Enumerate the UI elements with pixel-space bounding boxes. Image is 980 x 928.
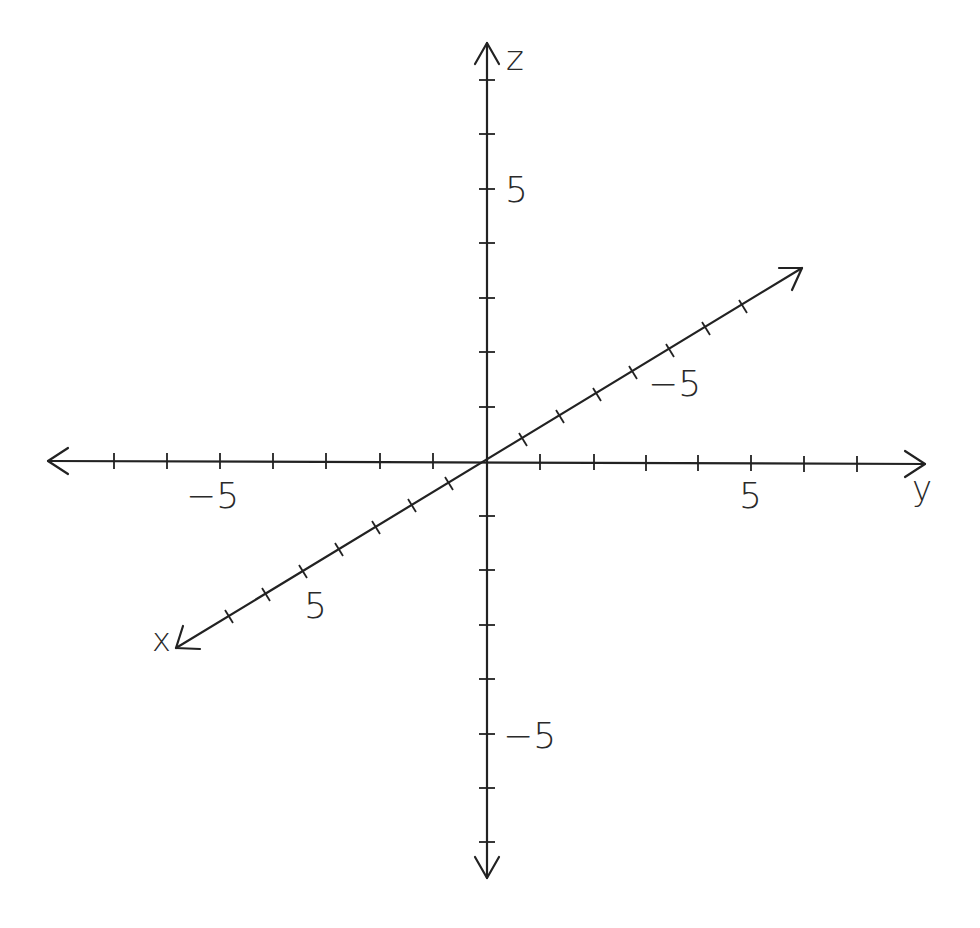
y-tick-label-negative: −5 xyxy=(186,475,239,516)
z-tick-label-negative: −5 xyxy=(503,715,556,756)
z-axis-label: z xyxy=(506,38,524,78)
x-tick-label-positive: 5 xyxy=(304,585,327,626)
z-tick-label-positive: 5 xyxy=(505,169,528,210)
x-axis-label: x xyxy=(152,621,171,659)
x-tick-label-negative: −5 xyxy=(648,363,701,404)
coordinate-diagram: y 5 −5 xyxy=(0,0,980,928)
y-tick-label-positive: 5 xyxy=(739,475,762,516)
y-axis-label: y xyxy=(912,468,932,508)
